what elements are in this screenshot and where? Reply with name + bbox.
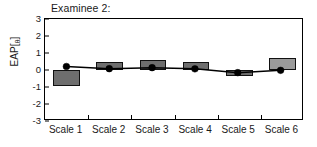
chart-title: Examinee 2:: [51, 2, 110, 14]
line-series: [45, 19, 302, 119]
x-axis-label: Scale 1: [49, 124, 82, 135]
line-marker: [63, 63, 70, 70]
line-path: [66, 67, 280, 73]
line-marker: [234, 69, 241, 76]
line-marker: [192, 66, 199, 73]
chart-screenshot: Examinee 2: EAP[θ] 3210-1-2-3 Scale 1Sca…: [0, 0, 317, 147]
y-tick-label: 0: [36, 65, 45, 75]
y-axis-title-subscript: θ: [13, 39, 22, 43]
x-axis-label: Scale 4: [178, 124, 211, 135]
line-marker: [149, 64, 156, 71]
x-axis-label: Scale 2: [92, 124, 125, 135]
y-axis-title-main: EAP[: [9, 44, 20, 67]
y-tick-label: -1: [33, 82, 45, 92]
y-tick-label: 3: [36, 14, 45, 24]
y-axis-title: EAP[θ]: [9, 24, 22, 80]
plot-area: 3210-1-2-3: [44, 18, 303, 120]
y-tick-label: 1: [36, 48, 45, 58]
line-marker: [277, 67, 284, 74]
y-tick-label: -3: [33, 116, 45, 126]
y-tick-label: 2: [36, 31, 45, 41]
line-marker: [106, 65, 113, 72]
x-axis-label: Scale 3: [135, 124, 168, 135]
x-axis-label: Scale 5: [222, 124, 255, 135]
y-tick-mark: [45, 121, 49, 122]
x-axis-label: Scale 6: [265, 124, 298, 135]
y-axis-title-close: ]: [9, 37, 20, 40]
y-tick-label: -2: [33, 99, 45, 109]
